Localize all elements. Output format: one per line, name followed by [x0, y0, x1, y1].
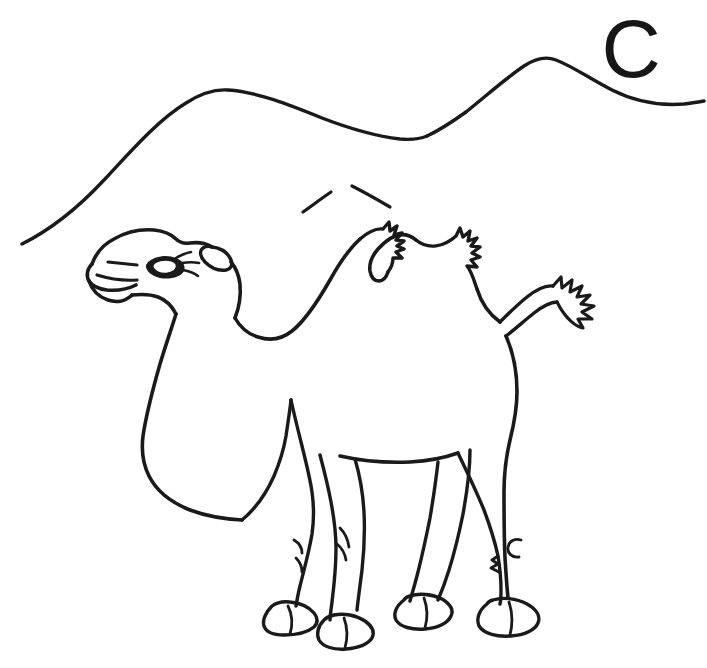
- page-background: [0, 0, 707, 668]
- coloring-page: C: [0, 0, 707, 668]
- line-art-illustration: [0, 0, 707, 668]
- camel-eyelash-2: [182, 262, 199, 263]
- letter-label-c: C: [588, 6, 674, 92]
